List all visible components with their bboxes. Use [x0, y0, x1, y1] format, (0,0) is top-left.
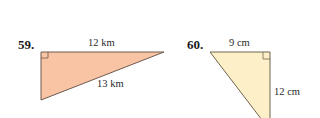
side-label-60-right: 12 cm	[274, 86, 300, 97]
figures-canvas	[0, 0, 320, 118]
triangle-59	[41, 52, 164, 100]
triangle-60	[210, 52, 270, 118]
problem-number-60: 60.	[187, 37, 203, 53]
problem-number-59: 59.	[18, 37, 34, 53]
side-label-60-top: 9 cm	[229, 37, 250, 48]
side-label-59-top: 12 km	[88, 37, 115, 48]
side-label-59-hypotenuse: 13 km	[97, 78, 124, 89]
